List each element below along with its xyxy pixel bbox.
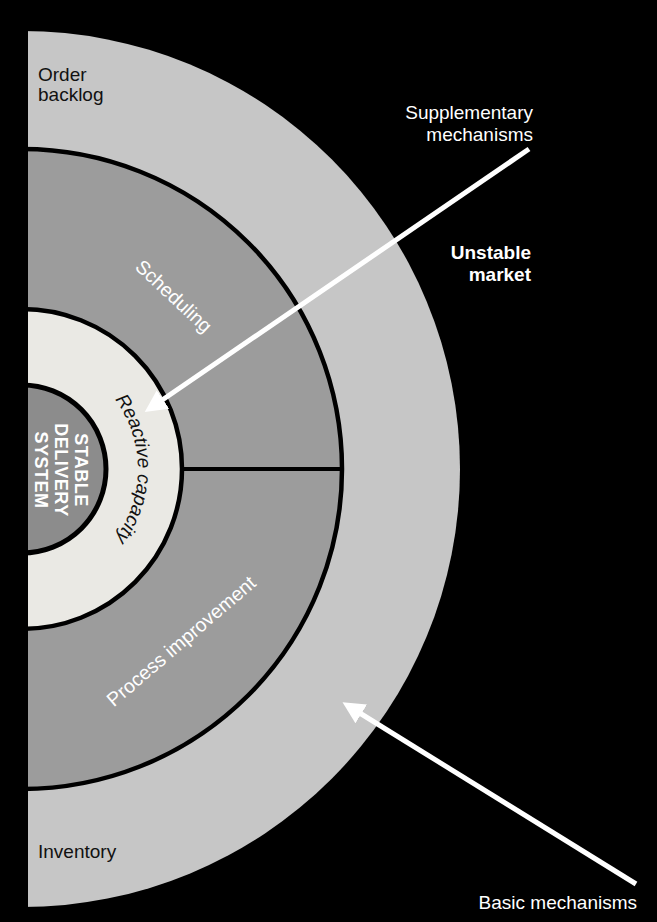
supplementary-line1: Supplementary bbox=[405, 102, 533, 123]
inventory-label: Inventory bbox=[38, 841, 117, 862]
core-label-line1: STABLE bbox=[71, 433, 91, 507]
basic-mechanisms-label: Basic mechanisms bbox=[479, 892, 637, 913]
supplementary-line2: mechanisms bbox=[426, 124, 533, 145]
order-backlog-line1: Order bbox=[38, 64, 87, 85]
core-label-line2: DELIVERY bbox=[51, 423, 71, 516]
unstable-market-line2: market bbox=[469, 264, 532, 285]
unstable-market-line1: Unstable bbox=[451, 242, 531, 263]
diagram-canvas: STABLE DELIVERY SYSTEM Reactive capacity… bbox=[0, 0, 657, 922]
core-label: STABLE DELIVERY SYSTEM bbox=[31, 423, 91, 516]
core-label-line3: SYSTEM bbox=[31, 431, 51, 508]
order-backlog-line2: backlog bbox=[38, 84, 104, 105]
lean-capacity-diagram: STABLE DELIVERY SYSTEM Reactive capacity… bbox=[0, 0, 657, 922]
left-edge-mask bbox=[0, 0, 28, 922]
